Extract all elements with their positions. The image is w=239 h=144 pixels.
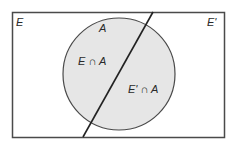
venn-diagram: E E' A E ∩ A E' ∩ A — [0, 0, 239, 144]
label-e: E — [16, 16, 24, 28]
label-e-prime-intersect-a: E' ∩ A — [128, 83, 158, 95]
label-e-intersect-a: E ∩ A — [78, 55, 106, 67]
label-e-prime: E' — [207, 16, 217, 28]
label-a: A — [98, 22, 106, 34]
